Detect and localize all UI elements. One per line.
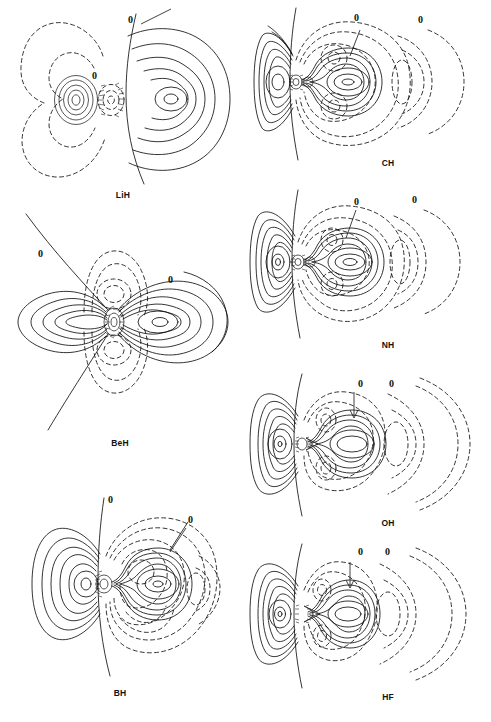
contour-plot-oh bbox=[268, 372, 482, 518]
leader-line-hf bbox=[346, 562, 354, 588]
zero-label-beh-left: 0 bbox=[38, 248, 43, 259]
positive-contours-right-ch bbox=[302, 48, 382, 116]
contour-panel-ch bbox=[268, 6, 482, 162]
contour-panel-lih bbox=[8, 4, 240, 194]
contour-plot-nh bbox=[268, 188, 482, 340]
panel-label-hf: HF bbox=[372, 692, 404, 702]
positive-contours-left-oh bbox=[250, 394, 298, 494]
positive-contours-left-beh bbox=[18, 291, 107, 352]
contour-panel-hf bbox=[268, 540, 482, 690]
negative-contours-nh bbox=[298, 206, 460, 322]
core-region-bh bbox=[95, 571, 112, 597]
panel-label-oh: OH bbox=[372, 518, 404, 528]
core-region-beh bbox=[104, 306, 124, 338]
positive-contours-right-bh bbox=[112, 548, 192, 620]
positive-contours-left-ch bbox=[254, 26, 293, 131]
zero-label-lih-outer: 0 bbox=[128, 14, 133, 25]
node-lines-nh bbox=[292, 190, 300, 338]
zero-label-ch-right: 0 bbox=[418, 14, 423, 25]
positive-contours-left-hf bbox=[250, 564, 298, 664]
positive-contours-left-bh bbox=[32, 528, 100, 639]
contour-plot-lih bbox=[8, 4, 240, 194]
positive-contours-right-oh bbox=[308, 410, 386, 478]
negative-contours-lih bbox=[21, 23, 105, 177]
contour-panel-beh bbox=[6, 212, 242, 432]
node-lines-hf bbox=[294, 544, 302, 688]
inner-node-lih bbox=[98, 83, 125, 117]
contour-plot-beh bbox=[6, 212, 242, 432]
zero-label-hf-left: 0 bbox=[358, 546, 363, 557]
leader-line-bh bbox=[170, 528, 186, 552]
positive-contours-right-beh bbox=[118, 281, 228, 363]
node-lines-oh bbox=[294, 374, 302, 516]
zero-label-nh-right: 0 bbox=[412, 194, 417, 205]
panel-label-nh: NH bbox=[372, 340, 404, 350]
figure-canvas: 0 0 LiH bbox=[0, 0, 491, 722]
panel-label-ch: CH bbox=[372, 158, 404, 168]
zero-label-lih-inner: 0 bbox=[92, 70, 97, 81]
core-region-oh bbox=[295, 437, 318, 452]
leader-line-lih-zero-top bbox=[141, 9, 171, 24]
contour-plot-ch bbox=[268, 6, 482, 162]
zero-label-bh-left: 0 bbox=[108, 494, 113, 505]
negative-contours-oh bbox=[304, 378, 470, 510]
contour-plot-hf bbox=[268, 540, 482, 690]
positive-contours-lih bbox=[128, 29, 230, 171]
zero-label-bh-right: 0 bbox=[188, 514, 193, 525]
leader-line-ch bbox=[350, 30, 360, 56]
panel-label-beh: BeH bbox=[100, 438, 140, 448]
node-line-lih bbox=[126, 14, 144, 184]
contour-plot-bh bbox=[16, 494, 240, 680]
positive-contours-right-nh bbox=[304, 228, 384, 296]
positive-contours-left-nh bbox=[250, 212, 295, 312]
zero-label-hf-right: 0 bbox=[385, 546, 390, 557]
node-lines-ch bbox=[290, 8, 298, 160]
zero-label-nh-left: 0 bbox=[354, 196, 359, 207]
panel-label-bh: BH bbox=[104, 688, 136, 698]
zero-label-ch-left: 0 bbox=[354, 12, 359, 23]
zero-label-oh-right: 0 bbox=[389, 378, 394, 389]
node-lines-beh bbox=[26, 214, 227, 430]
contour-panel-nh bbox=[268, 188, 482, 340]
panel-label-lih: LiH bbox=[105, 190, 141, 200]
contour-panel-oh bbox=[268, 372, 482, 518]
contour-panel-bh bbox=[16, 494, 240, 680]
negative-contours-ch bbox=[296, 22, 464, 146]
zero-label-oh-left: 0 bbox=[358, 378, 363, 389]
zero-label-beh-right: 0 bbox=[168, 274, 173, 285]
